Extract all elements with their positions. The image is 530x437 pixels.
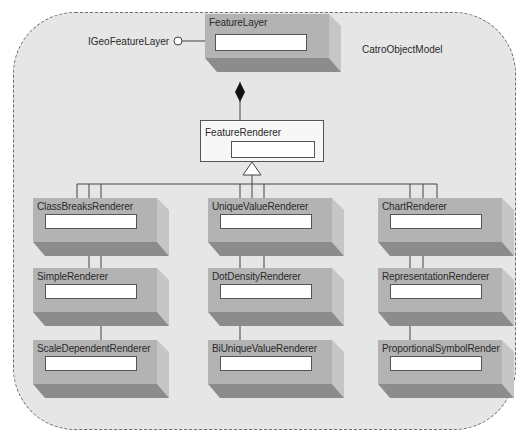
generalization-arrow-icon (243, 162, 261, 175)
box-bottom (378, 242, 514, 256)
class-box-unique-value-renderer[interactable]: UniqueValueRenderer (208, 198, 344, 254)
class-member-slot (45, 214, 137, 229)
class-box-chart-renderer[interactable]: ChartRenderer (378, 198, 514, 254)
class-name: ProportionalSymbolRender (382, 343, 500, 354)
box-bottom (33, 384, 169, 398)
box-bottom (208, 384, 344, 398)
box-bottom (205, 58, 341, 72)
class-box-simple-renderer[interactable]: SimpleRenderer (33, 268, 169, 324)
class-name: FeatureLayer (209, 17, 267, 28)
class-member-slot (390, 214, 482, 229)
class-member-slot (390, 356, 482, 371)
box-bottom (378, 384, 514, 398)
diagram-title: CatroObjectModel (362, 44, 443, 55)
class-name: SimpleRenderer (37, 271, 108, 282)
composition-diamond-icon (235, 82, 245, 102)
box-bottom (208, 242, 344, 256)
class-box-bi-unique-value-renderer[interactable]: BiUniqueValueRenderer (208, 340, 344, 396)
class-name: UniqueValueRenderer (212, 201, 308, 212)
class-member-slot (215, 34, 307, 51)
box-bottom (33, 242, 169, 256)
interface-lollipop-icon (174, 37, 182, 45)
class-member-slot (220, 356, 312, 371)
class-member-slot (231, 141, 315, 158)
class-box-proportional-symbol-renderer[interactable]: ProportionalSymbolRender (378, 340, 514, 396)
class-name: DotDensityRenderer (212, 271, 301, 282)
class-box-feature-renderer[interactable]: FeatureRenderer (200, 120, 324, 162)
class-member-slot (45, 284, 137, 299)
class-box-class-breaks-renderer[interactable]: ClassBreaksRenderer (33, 198, 169, 254)
class-member-slot (220, 214, 312, 229)
class-name: FeatureRenderer (205, 127, 281, 138)
class-box-dot-density-renderer[interactable]: DotDensityRenderer (208, 268, 344, 324)
box-bottom (33, 312, 169, 326)
class-box-scale-dependent-renderer[interactable]: ScaleDependentRenderer (33, 340, 169, 396)
class-box-representation-renderer[interactable]: RepresentationRenderer (378, 268, 514, 324)
box-bottom (378, 312, 514, 326)
class-name: BiUniqueValueRenderer (212, 343, 317, 354)
class-member-slot (220, 284, 312, 299)
class-member-slot (390, 284, 482, 299)
class-name: RepresentationRenderer (382, 271, 489, 282)
interface-label: IGeoFeatureLayer (88, 36, 169, 47)
class-box-feature-layer[interactable]: FeatureLayer (205, 14, 341, 70)
class-name: ClassBreaksRenderer (37, 201, 133, 212)
class-name: ScaleDependentRenderer (37, 343, 150, 354)
class-name: ChartRenderer (382, 201, 447, 212)
class-member-slot (45, 356, 137, 371)
box-bottom (208, 312, 344, 326)
